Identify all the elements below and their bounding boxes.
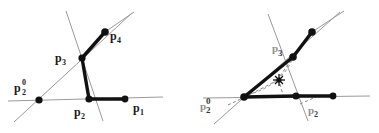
label-p1-base: p	[133, 101, 140, 115]
left-panel: p 1 p 2 p 2 0 p 3 p 4	[8, 11, 163, 122]
incenter-star	[273, 74, 285, 86]
label-p3: p 3	[55, 51, 66, 67]
node-p4	[101, 28, 109, 36]
label-p4: p 4	[110, 29, 121, 45]
geometry-figure-canvas: p 1 p 2 p 2 0 p 3 p 4	[0, 0, 379, 133]
label-p2: p 2	[74, 105, 85, 121]
label-p4-sub: 4	[117, 36, 121, 45]
label-p3-sub: 3	[62, 58, 66, 67]
node-left-vertex	[240, 93, 248, 101]
node-p2-prime	[292, 92, 299, 99]
label-p2-prime: p 2	[308, 104, 318, 119]
dashed-spoke-to-baseline	[280, 84, 283, 95]
right-upper-right-ray	[312, 11, 344, 32]
label-p2-zero-prime: p 2 0	[200, 96, 211, 115]
right-thick-baseline-edge	[244, 96, 333, 97]
right-thin-construction-lines	[203, 11, 370, 124]
label-p2-base: p	[74, 105, 81, 119]
label-p3-prime-sub: 3	[278, 48, 283, 58]
node-p3-prime	[289, 53, 297, 61]
left-labels: p 1 p 2 p 2 0 p 3 p 4	[14, 29, 144, 121]
left-thin-construction-lines	[8, 11, 163, 122]
label-p3-base: p	[55, 51, 62, 65]
label-p2-zero-sub: 2	[22, 88, 26, 97]
label-p2-zero-sup: 0	[22, 78, 26, 87]
label-p2-zero-prime-sub: 2	[206, 105, 211, 115]
node-p2	[85, 95, 92, 102]
star-center-dot	[276, 77, 281, 82]
figure-svg: p 1 p 2 p 2 0 p 3 p 4	[0, 0, 379, 133]
label-p2-zero-prime-sup: 0	[206, 96, 211, 106]
label-p2-zero-base: p	[14, 81, 21, 95]
node-p3	[78, 54, 85, 61]
node-right-end	[330, 93, 337, 100]
node-p1	[122, 96, 129, 103]
label-p3-prime: p 3	[272, 42, 283, 58]
label-p1-sub: 1	[140, 108, 144, 117]
node-upper-right	[308, 28, 316, 36]
label-p4-base: p	[110, 29, 117, 43]
right-panel: p 2 p 2 0 p 3	[200, 11, 370, 124]
label-p2-prime-sub: 2	[314, 110, 318, 119]
right-labels: p 2 p 2 0 p 3	[200, 42, 318, 119]
label-p1: p 1	[133, 101, 144, 117]
label-p2-zero: p 2 0	[14, 78, 26, 97]
node-p2-zero	[35, 96, 42, 103]
label-p2-sub: 2	[81, 112, 85, 121]
dashed-arc-right-lower	[300, 97, 316, 104]
